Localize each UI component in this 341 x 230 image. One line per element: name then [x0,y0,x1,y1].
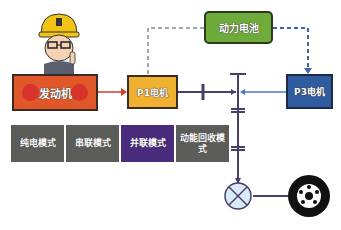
differential-icon [223,181,253,211]
mode-selector: 纯电模式 串联模式 并联模式 动能回收模式 [11,125,229,162]
mode-series-button[interactable]: 串联模式 [66,125,119,162]
wheel [287,174,331,222]
p3-motor-box: P3电机 [286,74,333,109]
p1-motor-box: P1电机 [127,75,178,109]
mode-regen-button[interactable]: 动能回收模式 [176,125,229,162]
wheel-icon [287,174,331,218]
engine-box: 发动机 [12,74,98,111]
engine-label: 发动机 [39,85,72,101]
mode-label: 动能回收模式 [180,133,225,155]
mode-parallel-button[interactable]: 并联模式 [121,125,174,162]
battery-label: 动力电池 [219,20,259,35]
p3-motor-label: P3电机 [294,85,325,98]
differential [223,181,253,215]
engineer-avatar [36,10,82,74]
mode-label: 并联模式 [130,138,166,149]
battery-box: 动力电池 [204,11,273,44]
cylinder-icon [22,84,39,101]
cylinder-icon [71,84,88,101]
mode-ev-button[interactable]: 纯电模式 [11,125,64,162]
p1-motor-label: P1电机 [137,86,168,99]
engineer-cartoon-icon [36,10,82,74]
mode-label: 纯电模式 [20,138,56,149]
mode-label: 串联模式 [75,138,111,149]
